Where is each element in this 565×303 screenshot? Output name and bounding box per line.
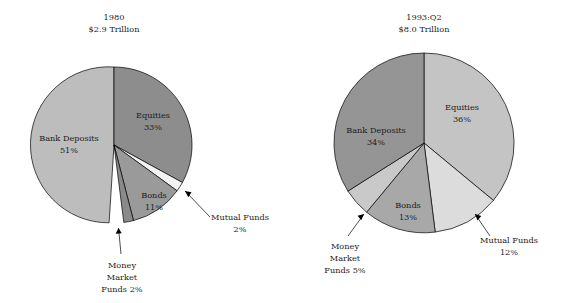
label-bonds-1993q2-name: Bonds bbox=[395, 200, 421, 210]
label-bank-deposits-1980-name: Bank Deposits bbox=[39, 133, 99, 143]
label-mutual-funds-1980-name: Mutual Funds bbox=[211, 212, 269, 222]
label-mutual-funds-1993q2-pct: 12% bbox=[500, 247, 518, 257]
label-bonds-1980-pct: 11% bbox=[145, 202, 163, 212]
label-bonds-1993q2-pct: 13% bbox=[399, 212, 417, 222]
chart-1993q2-subtitle: $8.0 Trillion bbox=[399, 24, 451, 34]
chart-1980-subtitle: $2.9 Trillion bbox=[89, 24, 141, 34]
chart-1993q2-title: 1993:Q2 bbox=[406, 12, 442, 22]
label-equities-1993q2-name: Equities bbox=[445, 102, 479, 112]
label-money-market-1980-line1: Money bbox=[108, 260, 136, 270]
label-bank-deposits-1993q2-pct: 34% bbox=[367, 137, 385, 147]
label-equities-1993q2-pct: 36% bbox=[453, 114, 471, 124]
label-money-market-1993q2-line1: Money bbox=[331, 241, 359, 251]
label-equities-1980-name: Equities bbox=[136, 110, 170, 120]
label-money-market-1993q2-line3: Funds 5% bbox=[324, 265, 365, 275]
label-mutual-funds-1980-pct: 2% bbox=[234, 224, 247, 234]
label-bank-deposits-1980-pct: 51% bbox=[60, 145, 78, 155]
label-bonds-1980-name: Bonds bbox=[141, 190, 167, 200]
label-money-market-1993q2-line2: Market bbox=[330, 253, 361, 263]
label-mutual-funds-1993q2-name: Mutual Funds bbox=[480, 235, 538, 245]
pie-chart-figure: 1980 $2.9 Trillion Equities 33% Bank Dep… bbox=[0, 0, 565, 303]
label-money-market-1980-line2: Market bbox=[107, 272, 138, 282]
label-money-market-1980-line3: Funds 2% bbox=[101, 284, 142, 294]
chart-1980-title: 1980 bbox=[104, 12, 125, 22]
label-equities-1980-pct: 33% bbox=[144, 122, 162, 132]
label-bank-deposits-1993q2-name: Bank Deposits bbox=[346, 125, 406, 135]
